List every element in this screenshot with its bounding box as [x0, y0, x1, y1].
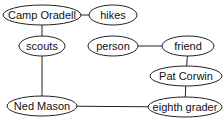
node-friend: friend	[162, 36, 214, 56]
node-label: eighth grader	[153, 101, 218, 113]
node-pat-corwin: Pat Corwin	[150, 66, 222, 86]
node-label: scouts	[26, 40, 58, 52]
node-label: Camp Oradell	[8, 9, 76, 21]
semantic-network-diagram: Camp OradellhikesscoutspersonfriendPat C…	[0, 0, 224, 122]
node-ned-mason: Ned Mason	[7, 96, 77, 116]
node-label: Pat Corwin	[159, 70, 213, 82]
node-person: person	[88, 36, 138, 56]
node-scouts: scouts	[19, 36, 65, 56]
node-eighth-grader: eighth grader	[148, 97, 222, 117]
edges-layer	[42, 15, 188, 107]
node-camp-oradell: Camp Oradell	[3, 5, 81, 25]
node-label: hikes	[100, 9, 126, 21]
node-label: friend	[174, 40, 202, 52]
node-label: person	[96, 40, 130, 52]
node-label: Ned Mason	[14, 100, 70, 112]
nodes-layer: Camp OradellhikesscoutspersonfriendPat C…	[3, 5, 222, 117]
node-hikes: hikes	[89, 5, 137, 25]
